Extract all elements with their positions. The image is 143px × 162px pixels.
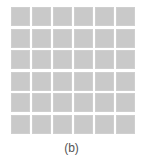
grid-cell [116,93,135,112]
grid-cell [11,29,30,48]
grid-cell [74,115,93,134]
grid-cell [74,29,93,48]
grid-cell [95,7,114,26]
square-grid [11,7,135,134]
grid-cell [116,7,135,26]
grid-cell [116,50,135,69]
grid-cell [95,29,114,48]
grid-cell [11,93,30,112]
grid-cell [74,72,93,91]
figure-label: (b) [0,141,143,155]
grid-cell [74,7,93,26]
grid-cell [53,29,72,48]
grid-cell [53,7,72,26]
grid-cell [74,50,93,69]
grid-cell [74,93,93,112]
grid-cell [32,50,51,69]
grid-cell [53,72,72,91]
grid-cell [95,72,114,91]
grid-cell [32,29,51,48]
grid-cell [32,7,51,26]
grid-cell [116,29,135,48]
grid-cell [95,115,114,134]
grid-cell [95,93,114,112]
grid-cell [95,50,114,69]
grid-cell [32,93,51,112]
grid-cell [53,50,72,69]
grid-cell [11,72,30,91]
grid-cell [116,115,135,134]
grid-cell [32,115,51,134]
grid-cell [11,50,30,69]
grid-cell [116,72,135,91]
grid-cell [11,115,30,134]
grid-cell [53,93,72,112]
grid-cell [32,72,51,91]
grid-cell [11,7,30,26]
grid-cell [53,115,72,134]
